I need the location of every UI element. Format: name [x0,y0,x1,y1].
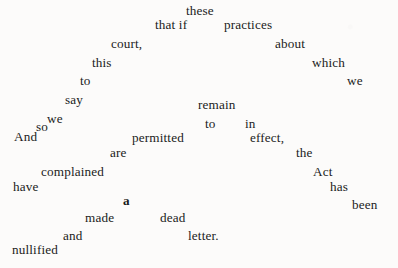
scattered-word: are [110,146,127,159]
scattered-word: practices [224,18,272,31]
scattered-word: we [347,74,363,87]
scattered-word: about [275,37,305,50]
scattered-word: a [123,194,130,207]
scattered-word: made [85,211,114,224]
scattered-word: remain [198,98,236,111]
scattered-word: this [92,56,112,69]
scattered-word: has [330,180,348,193]
scattered-word: And [14,130,37,143]
scattered-word: permitted [132,131,184,144]
scattered-word: Act [313,165,333,178]
scattered-word: nullified [12,243,58,256]
scattered-word: effect, [250,131,284,144]
scattered-word: been [352,198,378,211]
scattered-word: in [245,117,256,130]
scattered-word: the [296,146,313,159]
scattered-word: these [186,4,214,17]
scattered-word: court, [111,37,142,50]
scattered-word: complained [41,165,104,178]
scattered-word: say [65,93,83,106]
scattered-word: which [312,56,345,69]
scattered-word: to [80,74,91,87]
scattered-word: letter. [188,229,219,242]
scattered-word: that if [155,18,187,31]
scattered-text-page: thesethat ifpracticescourt,aboutthiswhic… [0,0,398,268]
scattered-word: so [36,120,48,133]
scattered-word: and [63,229,83,242]
scattered-word: we [47,112,63,125]
scattered-word: to [205,117,216,130]
scattered-word: have [13,180,39,193]
scattered-word: dead [160,211,186,224]
